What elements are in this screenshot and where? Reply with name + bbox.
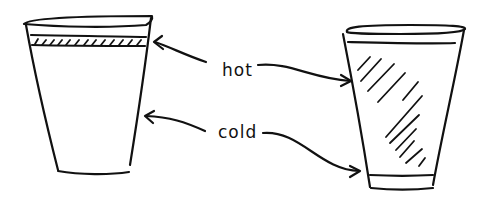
right-cup-side-right xyxy=(433,30,464,185)
label-hot: hot xyxy=(222,62,253,79)
arrow-hot-right xyxy=(258,65,351,86)
left-cup-band-top xyxy=(31,35,146,37)
left-cup-side-left xyxy=(26,25,58,170)
diagram-canvas xyxy=(0,0,483,200)
right-cup xyxy=(343,25,465,190)
right-cup-bottom xyxy=(371,188,433,190)
right-cup-rim xyxy=(347,25,465,34)
label-cold: cold xyxy=(218,124,257,141)
left-cup xyxy=(24,16,152,174)
left-cup-bottom xyxy=(58,171,129,174)
left-cup-rim xyxy=(24,16,152,27)
left-cup-hatching xyxy=(35,39,141,45)
right-cup-inner-rim xyxy=(348,42,455,43)
arrow-cold-left xyxy=(145,111,205,131)
arrow-hot-left xyxy=(154,36,206,62)
right-cup-band-top xyxy=(370,175,433,176)
right-cup-shading xyxy=(358,57,425,166)
right-cup-side-left xyxy=(343,34,370,187)
arrow-cold-right xyxy=(263,133,360,177)
